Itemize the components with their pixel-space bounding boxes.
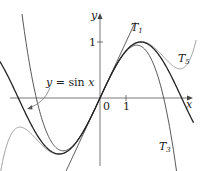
t5-label: T5: [178, 52, 190, 66]
origin-label: 0: [103, 100, 110, 113]
x-axis-label: x: [186, 98, 193, 111]
taylor-polynomials-diagram: y x 0 1 1 y = sin x T1 T5 T3: [0, 0, 204, 171]
y-axis-label: y: [90, 9, 98, 22]
sin-label: y = sin x: [45, 76, 95, 89]
y-tick-label-1: 1: [89, 36, 96, 49]
annotation-arrow-head-icon: [27, 105, 33, 110]
x-tick-label-1: 1: [123, 100, 130, 113]
y-axis-arrow-icon: [98, 13, 103, 19]
t1-label: T1: [131, 21, 143, 35]
t3-label: T3: [159, 140, 171, 154]
